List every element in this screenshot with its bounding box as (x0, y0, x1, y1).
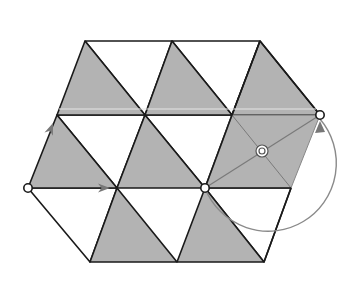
tiling-diagram (0, 0, 349, 281)
rotation-pivot-marker (201, 184, 209, 192)
start-point-marker (24, 184, 32, 192)
rotation-center-inner (259, 148, 265, 154)
image-point-marker (316, 111, 324, 119)
